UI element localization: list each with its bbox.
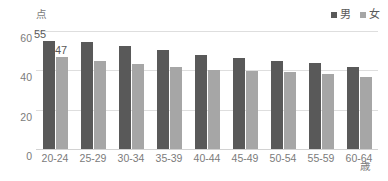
bar-女-40-44[interactable] (208, 70, 220, 149)
bar-女-35-39[interactable] (170, 67, 182, 149)
bar-男-30-34[interactable] (119, 46, 131, 149)
bar-group (302, 32, 340, 149)
bar-男-50-54[interactable] (271, 61, 283, 150)
bar-男-20-24[interactable] (43, 41, 55, 149)
bar-group (226, 32, 264, 149)
x-axis-tick-label: 55-59 (302, 152, 340, 164)
bar-女-45-49[interactable] (246, 71, 258, 149)
bar-女-30-34[interactable] (132, 64, 144, 149)
bar-group (264, 32, 302, 149)
bar-group (188, 32, 226, 149)
x-axis-tick-label: 20-24 (36, 152, 74, 164)
bar-男-35-39[interactable] (157, 50, 169, 149)
x-axis-unit-label: 歳 (360, 158, 370, 173)
x-axis-tick-label: 30-34 (112, 152, 150, 164)
chart-legend: 男 女 (331, 9, 380, 20)
bar-groups: 5547 (36, 32, 378, 149)
bar-group (150, 32, 188, 149)
x-axis-tick-labels: 20-2425-2930-3435-3940-4445-4950-5455-59… (36, 152, 378, 164)
x-axis-tick-label: 35-39 (150, 152, 188, 164)
x-axis-tick-label: 45-49 (226, 152, 264, 164)
bar-男-45-49[interactable] (233, 58, 245, 149)
bar-女-60-64[interactable] (360, 77, 372, 149)
y-axis-tick-labels: 6040200 (0, 32, 32, 150)
bar-group (112, 32, 150, 149)
bar-男-40-44[interactable] (195, 55, 207, 149)
x-axis-tick-label: 25-29 (74, 152, 112, 164)
bar-group (340, 32, 378, 149)
bar-男-25-29[interactable] (81, 42, 93, 149)
legend-label-male: 男 (340, 9, 351, 20)
plot-area: 5547 (36, 32, 378, 150)
bar-女-25-29[interactable] (94, 61, 106, 149)
bar-女-50-54[interactable] (284, 72, 296, 149)
x-axis-tick-label: 60-64 (340, 152, 378, 164)
legend-item-female[interactable]: 女 (360, 9, 380, 20)
bar-group (74, 32, 112, 149)
axis-baseline (36, 149, 378, 150)
legend-swatch-female (360, 12, 366, 18)
x-axis-tick-label: 50-54 (264, 152, 302, 164)
bar-男-55-59[interactable] (309, 63, 321, 149)
y-axis-unit-label: 点 (36, 6, 46, 21)
legend-label-female: 女 (369, 9, 380, 20)
bar-group: 5547 (36, 32, 74, 149)
legend-swatch-male (331, 12, 337, 18)
bar-value-label: 55 (34, 28, 46, 40)
bar-女-20-24[interactable] (56, 57, 68, 149)
legend-item-male[interactable]: 男 (331, 9, 351, 20)
x-axis-tick-label: 40-44 (188, 152, 226, 164)
bar-value-label: 47 (55, 44, 67, 56)
bar-女-55-59[interactable] (322, 74, 334, 149)
bar-chart: 男 女 点 6040200 5547 20-2425-2930-3435-394… (0, 0, 388, 181)
bar-男-60-64[interactable] (347, 67, 359, 149)
